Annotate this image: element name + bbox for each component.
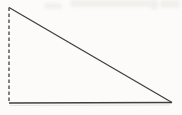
scan-echo-line (10, 105, 170, 106)
triangle-base (9, 103, 172, 104)
triangle-hypotenuse (9, 8, 172, 103)
scanned-diagram-canvas (0, 0, 182, 115)
right-triangle-figure (0, 0, 182, 115)
